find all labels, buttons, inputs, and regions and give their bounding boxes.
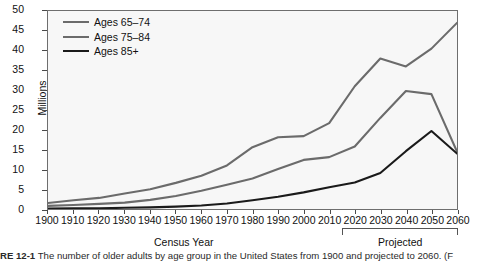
y-tick-label: 0 [0, 204, 24, 215]
legend: Ages 65–74 Ages 75–84 Ages 85+ [63, 17, 150, 57]
y-tick-label: 50 [0, 4, 24, 15]
legend-label-ages-75-84: Ages 75–84 [94, 32, 150, 43]
legend-swatch-ages-65-74 [63, 21, 89, 23]
y-tick-label: 5 [0, 184, 24, 195]
legend-item-ages-85-plus: Ages 85+ [63, 46, 150, 57]
legend-label-ages-65-74: Ages 65–74 [94, 17, 150, 28]
y-tick-label: 25 [0, 104, 24, 115]
y-tick-label: 15 [0, 144, 24, 155]
figure-caption: RE 12-1 The number of older adults by ag… [0, 250, 486, 261]
x-tick-label: 2060 [438, 215, 478, 226]
legend-item-ages-75-84: Ages 75–84 [63, 32, 150, 43]
bracket-left-cap [342, 228, 343, 235]
legend-label-ages-85-plus: Ages 85+ [94, 46, 139, 57]
plot-area: Ages 65–74 Ages 75–84 Ages 85+ [47, 10, 458, 210]
bracket-bar [342, 228, 458, 229]
y-tick-label: 45 [0, 24, 24, 35]
bracket-right-cap [457, 228, 458, 235]
projected-label: Projected [342, 236, 458, 248]
figure-caption-text: The number of older adults by age group … [38, 250, 453, 261]
y-tick-label: 20 [0, 124, 24, 135]
y-tick-label: 30 [0, 84, 24, 95]
x-axis-title: Census Year [154, 236, 214, 248]
y-tick-label: 10 [0, 164, 24, 175]
legend-item-ages-65-74: Ages 65–74 [63, 17, 150, 28]
y-tick-label: 40 [0, 44, 24, 55]
legend-swatch-ages-85-plus [63, 50, 89, 52]
y-tick-label: 35 [0, 64, 24, 75]
projected-bracket [342, 228, 458, 235]
legend-swatch-ages-75-84 [63, 36, 89, 38]
figure-caption-number: RE 12-1 [0, 250, 35, 261]
